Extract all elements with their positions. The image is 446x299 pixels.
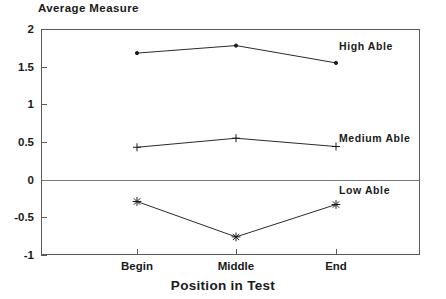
chart-figure: Average Measure 21.510.50-0.5-1 BeginMid… xyxy=(0,0,446,299)
data-point-marker xyxy=(133,143,141,151)
data-point-marker xyxy=(332,200,341,209)
zero-reference-line xyxy=(41,180,420,181)
data-point-marker xyxy=(334,61,337,64)
x-axis-title: Position in Test xyxy=(0,278,446,293)
series-line-low-able xyxy=(137,202,336,237)
data-point-marker xyxy=(133,197,142,206)
data-point-marker xyxy=(232,233,241,242)
series-label-medium-able: Medium Able xyxy=(339,132,411,144)
series-label-high-able: High Able xyxy=(339,40,393,52)
series-label-low-able: Low Able xyxy=(339,184,390,196)
data-point-marker xyxy=(135,52,138,55)
data-point-marker xyxy=(232,134,240,142)
series-line-high-able xyxy=(137,46,336,63)
data-point-marker xyxy=(234,44,237,47)
